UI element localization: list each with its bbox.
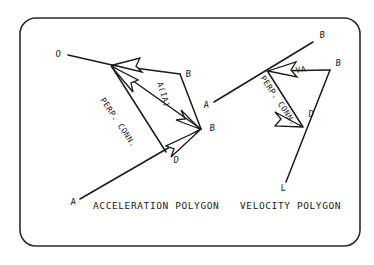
acceleration-polygon: O B B D A PERP. CONN. A(IA) xyxy=(55,48,216,207)
accel-point-label-O: O xyxy=(55,48,62,59)
accel-point-label-B-right: B xyxy=(209,122,216,133)
accel-point-label-B-top: B xyxy=(185,68,192,79)
vel-vector-label-perp-conn: PERP. CONN. xyxy=(258,74,298,127)
accel-arrowhead-at-Bright-base xyxy=(166,130,200,157)
rounded-border xyxy=(20,18,360,246)
vel-point-label-B-right: B xyxy=(335,57,342,68)
caption-acceleration-polygon: ACCELERATION POLYGON xyxy=(93,200,219,211)
accel-segment-O-hub xyxy=(68,55,112,65)
vel-vector-label-va: VA xyxy=(295,65,307,75)
velocity-polygon: B B A D L PERP. CONN. VA xyxy=(202,29,342,193)
vel-point-label-B-top: B xyxy=(319,29,326,40)
accel-vector-label-a-ia: A(IA) xyxy=(155,81,172,109)
vel-point-label-D: D xyxy=(307,108,315,119)
accel-point-label-A: A xyxy=(69,196,77,207)
diagram-page: O B B D A PERP. CONN. A(IA) B xyxy=(0,0,374,265)
vel-point-label-A: A xyxy=(202,99,210,110)
accel-point-label-D: D xyxy=(172,154,180,165)
vel-arrowhead-va xyxy=(268,62,297,77)
kinematic-polygons-figure: O B B D A PERP. CONN. A(IA) B xyxy=(0,0,374,265)
vel-point-label-L: L xyxy=(280,182,287,193)
caption-velocity-polygon: VELOCITY POLYGON xyxy=(240,200,341,211)
accel-vector-label-perp-conn: PERP. CONN. xyxy=(98,96,138,149)
accel-segment-D-hub xyxy=(112,67,166,152)
